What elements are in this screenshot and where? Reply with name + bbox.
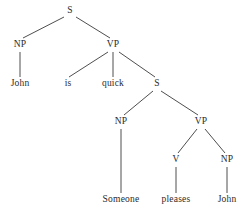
- tree-edge-group: [20, 17, 227, 193]
- tree-node-np-embedded: NP: [115, 117, 128, 127]
- tree-node-np-subject: NP: [14, 40, 27, 50]
- tree-edge-s-embedded-to-np-embedded: [124, 91, 153, 115]
- syntax-tree-figure: SNPVPJohnisquickSNPVPVNPSomeonepleasesJo…: [0, 0, 246, 217]
- tree-node-word-pleases: pleases: [162, 195, 191, 205]
- tree-edge-vp-main-to-s-embedded: [119, 52, 155, 77]
- tree-node-word-is: is: [65, 79, 72, 89]
- tree-node-vp-embedded: VP: [195, 117, 208, 127]
- tree-node-np-object: NP: [221, 155, 234, 165]
- tree-node-word-quick: quick: [102, 79, 124, 89]
- tree-edge-s-embedded-to-vp-embedded: [161, 91, 198, 115]
- tree-edge-vp-main-to-word-is: [69, 52, 108, 77]
- tree-node-v-embedded: V: [172, 155, 179, 165]
- tree-edges-layer: [0, 0, 246, 217]
- tree-node-word-someone: Someone: [103, 195, 140, 205]
- tree-node-s-embedded: S: [154, 79, 159, 89]
- tree-edge-vp-embedded-to-np-object: [205, 129, 225, 153]
- tree-node-s-root: S: [67, 6, 72, 16]
- tree-edge-s-root-to-np-subject: [23, 17, 64, 38]
- tree-node-vp-main: VP: [107, 40, 120, 50]
- tree-node-word-john-1: John: [11, 79, 30, 89]
- tree-node-word-john-2: John: [218, 195, 237, 205]
- tree-edge-vp-embedded-to-v-embedded: [178, 129, 197, 153]
- tree-edge-s-root-to-vp-main: [76, 17, 110, 38]
